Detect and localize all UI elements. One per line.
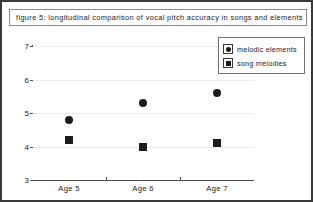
data-point-square [139,143,147,151]
y-axis-tick-label: 5 [7,109,29,118]
x-axis-tick-label: Age 6 [132,184,153,193]
data-point-square [65,136,73,144]
y-axis-tick-mark [30,147,33,148]
y-axis-tick-label: 4 [7,142,29,151]
y-axis-tick-label: 6 [7,75,29,84]
x-axis-tick-mark [106,177,107,181]
y-axis-tick-mark [30,80,33,81]
legend-label-melodic-elements: melodic elements [237,45,297,54]
gridline [32,80,254,81]
data-point-square [213,139,221,147]
y-axis-tick-labels: 34567 [2,2,29,202]
circle-marker-icon [223,44,233,54]
x-axis-tick-mark [180,177,181,181]
y-axis-tick-label: 7 [7,42,29,51]
x-axis-tick-label: Age 5 [58,184,79,193]
x-axis-line [32,180,254,181]
legend-label-song-melodies: song melodies [237,59,287,68]
legend-item-melodic-elements: melodic elements [223,42,304,56]
data-point-circle [139,99,147,107]
y-axis-tick-mark [30,46,33,47]
y-axis-tick-label: 3 [7,176,29,185]
legend-item-song-melodies: song melodies [223,56,304,70]
y-axis-tick-mark [30,180,33,181]
x-axis-tick-label: Age 7 [206,184,227,193]
data-point-circle [213,89,221,97]
figure-title-box: figure 5: longitudinal comparison of voc… [9,9,307,26]
y-axis-tick-mark [30,113,33,114]
square-marker-icon [223,58,233,68]
figure-title: figure 5: longitudinal comparison of voc… [10,13,303,22]
gridline [32,113,254,114]
chart-legend: melodic elements song melodies [218,37,305,74]
figure-container: figure 5: longitudinal comparison of voc… [0,0,313,202]
data-point-circle [65,116,73,124]
